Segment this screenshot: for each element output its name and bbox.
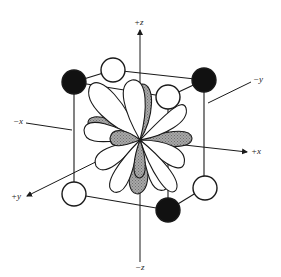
sphere-filled	[156, 198, 180, 222]
sphere-filled	[62, 70, 86, 94]
axis-label-ny: −y	[253, 75, 263, 84]
axis-label-pz: +z	[134, 18, 144, 27]
sphere-open	[193, 176, 217, 200]
axis-label-px: +x	[251, 147, 261, 156]
axis-label-nx: −x	[13, 117, 23, 126]
sphere-open	[101, 58, 125, 82]
diagram-canvas	[0, 0, 281, 277]
sphere-open	[156, 85, 180, 109]
axis-label-nz: −z	[135, 263, 145, 272]
x-axis-negative	[26, 123, 72, 130]
axis-label-py: +y	[11, 192, 21, 201]
sphere-filled	[192, 68, 216, 92]
sphere-open	[62, 182, 86, 206]
orbital-diagram: +z −z −x +x −y +y	[0, 0, 281, 277]
